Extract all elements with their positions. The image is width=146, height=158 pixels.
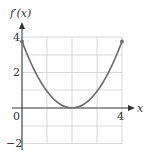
x-axis-label: x — [137, 102, 144, 115]
chart: f′(x) x 4 2 −2 0 4 — [0, 0, 146, 158]
x-axis-arrow-icon — [128, 105, 135, 111]
right-endpoint — [120, 39, 124, 43]
left-endpoint — [20, 39, 24, 43]
y-axis-label: f′(x) — [9, 7, 31, 20]
x-tick-0: 0 — [13, 110, 20, 123]
y-axis-arrow-icon — [19, 22, 25, 29]
y-tick-2: 2 — [13, 66, 20, 79]
y-tick-4: 4 — [13, 31, 20, 44]
x-tick-4: 4 — [117, 110, 124, 123]
axes — [12, 22, 135, 150]
y-tick-neg2: −2 — [6, 137, 22, 150]
grid — [22, 37, 122, 144]
